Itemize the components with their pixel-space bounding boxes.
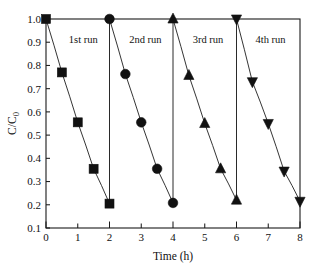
x-axis-tick-label: 5 bbox=[202, 231, 208, 243]
x-axis-title: Time (h) bbox=[153, 250, 193, 263]
data-point-square bbox=[105, 199, 114, 208]
y-axis-tick-label: 0.9 bbox=[27, 36, 41, 48]
y-axis-tick-label: 1.0 bbox=[27, 13, 41, 25]
y-axis-tick-label: 0.7 bbox=[27, 83, 41, 95]
run-annotation-2: 2nd run bbox=[129, 34, 162, 45]
x-axis-tick-label: 7 bbox=[266, 231, 272, 243]
data-point-circle bbox=[121, 69, 131, 79]
x-axis-tick-label: 1 bbox=[75, 231, 81, 243]
y-axis-tick-label: 0.3 bbox=[27, 175, 41, 187]
concentration-decay-chart: 0.10.20.30.40.50.60.70.80.91.0012345678 … bbox=[0, 0, 314, 268]
run-annotation-1: 1st run bbox=[69, 34, 99, 45]
y-axis-tick-label: 0.4 bbox=[27, 152, 41, 164]
run-annotation-4: 4th run bbox=[256, 34, 287, 45]
y-axis-tick-label: 0.5 bbox=[27, 129, 41, 141]
data-point-square bbox=[57, 68, 66, 77]
data-point-square bbox=[42, 15, 51, 24]
data-point-circle bbox=[105, 14, 115, 24]
data-point-square bbox=[89, 164, 98, 173]
x-axis-tick-label: 6 bbox=[234, 231, 240, 243]
x-axis-tick-label: 3 bbox=[139, 231, 145, 243]
x-axis-tick-label: 8 bbox=[297, 231, 303, 243]
data-point-square bbox=[73, 118, 82, 127]
data-point-circle bbox=[136, 118, 146, 128]
y-axis-tick-label: 0.8 bbox=[27, 59, 41, 71]
x-axis-tick-label: 4 bbox=[170, 231, 176, 243]
x-axis-tick-label: 0 bbox=[43, 231, 49, 243]
data-point-circle bbox=[152, 164, 162, 174]
y-axis-tick-label: 0.2 bbox=[27, 199, 41, 211]
data-point-circle bbox=[168, 198, 178, 208]
figure-container: 0.10.20.30.40.50.60.70.80.91.0012345678 … bbox=[0, 0, 314, 268]
run-annotation-3: 3rd run bbox=[193, 34, 224, 45]
y-axis-tick-label: 0.1 bbox=[27, 222, 41, 234]
y-axis-tick-label: 0.6 bbox=[27, 106, 41, 118]
x-axis-tick-label: 2 bbox=[107, 231, 113, 243]
